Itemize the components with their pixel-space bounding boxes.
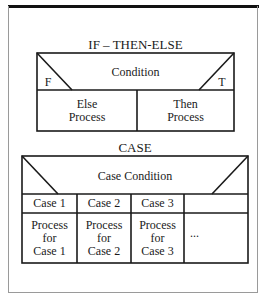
case-process-2: Process for Case 2 <box>77 213 131 263</box>
case-process-ellipsis: ... <box>190 213 210 253</box>
case-process-3-line3: Case 3 <box>141 245 173 258</box>
case-process-2-line2: for <box>97 232 111 245</box>
ellipsis: ... <box>190 227 199 240</box>
case-process-2-line3: Case 2 <box>88 245 120 258</box>
then-process-line1: Then <box>173 98 198 111</box>
case-process-1-line2: for <box>43 232 57 245</box>
case-process-2-line1: Process <box>86 219 123 232</box>
case-process-1-line3: Case 1 <box>33 245 65 258</box>
case-process-3-line2: for <box>151 232 165 245</box>
case-process-1: Process for Case 1 <box>22 213 77 263</box>
case-process-1-line1: Process <box>31 219 68 232</box>
case-label-2: Case 2 <box>77 194 131 213</box>
then-process-cell: Then Process <box>137 90 234 131</box>
else-process-line1: Else <box>77 98 98 111</box>
case-label-3: Case 3 <box>131 194 184 213</box>
else-process-line2: Process <box>69 111 106 124</box>
if-then-else-title: IF – THEN-ELSE <box>37 37 234 53</box>
if-condition-label: Condition <box>72 62 199 82</box>
case-title: CASE <box>22 140 248 156</box>
else-process-cell: Else Process <box>37 90 137 131</box>
then-process-line2: Process <box>167 111 204 124</box>
case-process-3: Process for Case 3 <box>131 213 184 263</box>
false-branch-label: F <box>42 75 54 89</box>
case-process-3-line1: Process <box>139 219 176 232</box>
case-label-1: Case 1 <box>22 194 77 213</box>
case-label-4 <box>184 194 248 213</box>
case-condition-label: Case Condition <box>58 166 212 186</box>
true-branch-label: T <box>216 75 228 89</box>
